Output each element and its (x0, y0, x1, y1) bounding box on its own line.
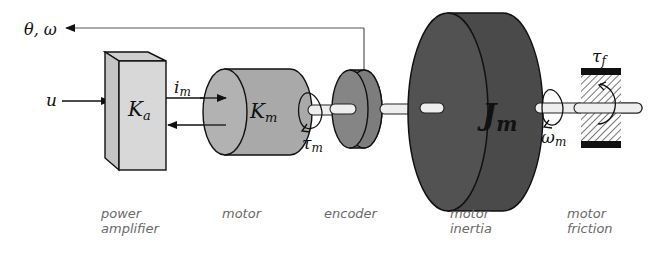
friction-torque-label: τf (592, 46, 608, 68)
current-label: im (174, 77, 191, 99)
shaft-end-inertia (420, 103, 444, 113)
diagram-canvas: θ, ω u Ka im Km τm Jm (0, 0, 661, 262)
caption-motor: motor (222, 206, 263, 221)
caption-encoder: encoder (324, 206, 379, 221)
feedback-label: θ, ω (24, 20, 57, 39)
caption-power-amplifier: power amplifier (100, 206, 161, 236)
caption-motor-friction: motor friction (567, 206, 613, 236)
motor-speed-label: ωm (541, 127, 566, 149)
input-label: u (46, 90, 57, 110)
shaft-end-encoder (330, 104, 356, 114)
caption-motor-inertia: motor inertia (450, 206, 493, 236)
motor-torque-label: τm (302, 133, 323, 155)
motor-friction-block (574, 68, 642, 148)
